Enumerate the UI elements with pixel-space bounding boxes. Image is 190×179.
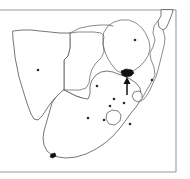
dot-namibia xyxy=(37,69,40,72)
dot-limpopo xyxy=(96,85,99,88)
zimbabwe-outline xyxy=(103,20,150,73)
dot-freestate-south xyxy=(109,105,112,108)
mozambique-west-border xyxy=(140,21,158,100)
dot-kwazulu xyxy=(129,123,132,126)
map-canvas xyxy=(0,0,190,179)
southern-africa-map-figure: Southern Africa distribution map xyxy=(0,0,190,179)
dot-freestate-north xyxy=(123,102,126,105)
dot-gauteng xyxy=(113,98,116,101)
country-zimbabwe xyxy=(103,20,150,73)
dot-mpumalanga xyxy=(151,79,154,82)
mozambique-north-coast xyxy=(158,10,173,30)
cape-locality-marker xyxy=(50,153,56,158)
dot-eastern-cape xyxy=(103,119,106,122)
map-screenshot: Southern Africa distribution map xyxy=(0,0,190,179)
dot-zimbabwe xyxy=(134,39,137,42)
dot-northern-cape xyxy=(87,117,90,120)
country-mozambique xyxy=(140,10,173,101)
highlighted-locality-marker xyxy=(121,69,134,77)
